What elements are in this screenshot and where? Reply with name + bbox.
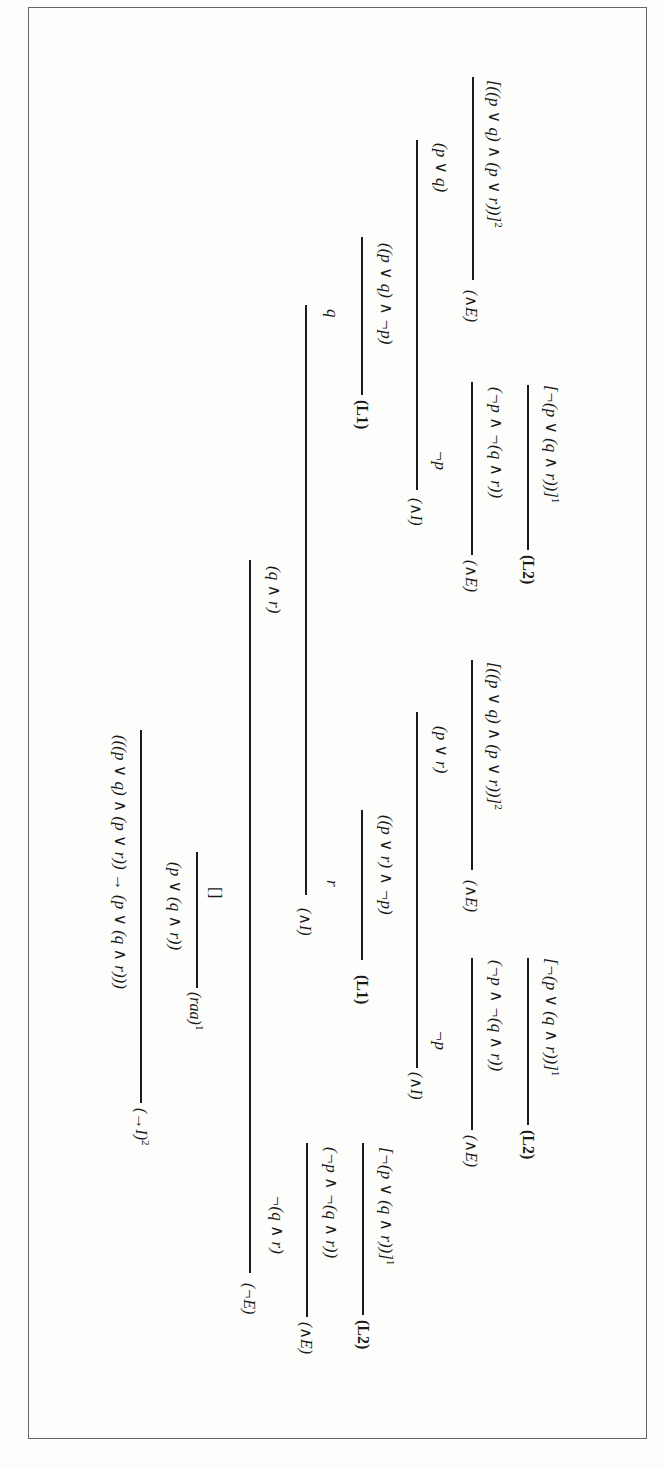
rule-label-neg-elim: (¬E) [241,1283,257,1314]
falsum-symbol: [] [207,887,224,898]
formula-notp-and-notqr-3: (¬p ∧ ¬(q ∧ r)) [323,1147,340,1258]
rule-label-raa: (raa)1 [187,992,203,1030]
rule-line-neg-elim [249,560,251,1273]
rule-line-and-intro-q [416,140,418,490]
formula-not-q-and-r: ¬(q ∧ r) [269,1195,286,1254]
rule-label-and-elim-notqr: (∧E) [298,1322,314,1354]
rule-line-raa [196,852,198,988]
rule-label-and-intro-q: (∧I) [408,498,424,526]
formula-notp-1: ¬p [432,450,449,470]
rule-line-and-elim-notp-1 [471,382,473,555]
hypothesis-not-p-or-qr-1: [¬(p ∨ (q ∧ r))]1 [543,385,560,503]
rule-label-and-intro-r: (∧I) [408,1072,424,1100]
hypothesis-pq-and-pr-1: [((p ∨ q) ∧ (p ∨ r))]2 [486,80,503,228]
raa-conclusion-formula: (p ∨ (q ∧ r)) [167,862,184,950]
rule-label-L2-1: (L2) [520,555,536,584]
rule-line-and-intro-r [416,712,418,1068]
rule-label-and-elim-notp-2: (∧E) [463,1135,479,1167]
rule-line-L2-2 [527,958,529,1125]
rule-label-and-elim-pq: (∧E) [463,290,479,322]
rule-line-imp-intro [140,730,142,1103]
rule-label-L1-q: (L1) [354,400,370,429]
rule-line-and-elim-notp-2 [471,958,473,1130]
rule-line-and-elim-notqr [306,1143,308,1317]
rule-label-L2-3: (L2) [355,1320,371,1349]
rule-line-and-intro-qr [305,305,307,895]
rule-line-L1-q [361,237,363,395]
formula-notp-and-notqr-2: (¬p ∧ ¬(q ∧ r)) [488,960,505,1071]
formula-notp-and-notqr-1: (¬p ∧ ¬(q ∧ r)) [488,387,505,498]
rule-line-and-elim-pr [471,660,473,870]
rule-label-and-elim-pr: (∧E) [463,880,479,912]
rule-line-L2-3 [362,1143,364,1315]
rule-label-L1-r: (L1) [354,975,370,1004]
formula-q: q [324,309,341,318]
formula-notp-2: ¬p [432,1030,449,1050]
conclusion-formula: (((p ∨ q) ∧ (p ∨ r)) → (p ∨ (q ∧ r))) [112,735,129,989]
rule-line-and-elim-pq [472,77,474,280]
formula-pr-and-notp: ((p ∨ r) ∧ ¬p) [378,815,395,915]
rule-label-imp-intro: (→I)2 [133,1108,149,1145]
rule-line-L1-r [361,810,363,960]
formula-pq-and-notp: ((p ∨ q) ∧ ¬p) [378,243,395,345]
rule-label-and-intro-qr: (∧I) [297,908,313,936]
formula-q-and-r: (q ∧ r) [266,566,283,613]
hypothesis-pq-and-pr-2: [((p ∨ q) ∧ (p ∨ r))]2 [486,662,503,810]
formula-r: r [324,880,341,887]
hypothesis-not-p-or-qr-2: [¬(p ∨ (q ∧ r))]1 [543,958,560,1076]
rule-line-L2-1 [527,385,529,550]
hypothesis-not-p-or-qr-3: [¬(p ∨ (q ∧ r))]1 [378,1147,395,1265]
rule-label-L2-2: (L2) [520,1130,536,1159]
formula-p-or-q: (p ∨ q) [433,143,450,192]
rule-label-and-elim-notp-1: (∧E) [463,560,479,592]
formula-p-or-r: (p ∨ r) [433,726,450,773]
